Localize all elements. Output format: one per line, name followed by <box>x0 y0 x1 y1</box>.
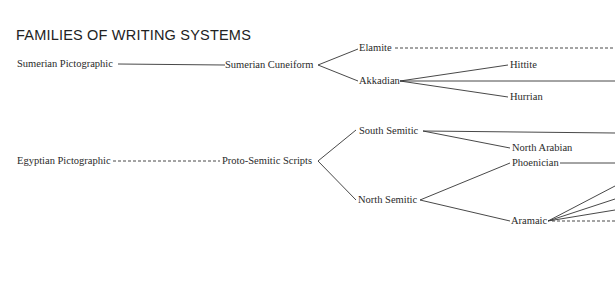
node-sumerian-cuneiform: Sumerian Cuneiform <box>225 59 313 71</box>
node-phoenician: Phoenician <box>512 157 559 169</box>
node-sumerian-pictographic: Sumerian Pictographic <box>17 58 113 70</box>
node-elamite: Elamite <box>359 42 392 54</box>
node-south-semitic: South Semitic <box>359 125 418 137</box>
node-egyptian-pictographic: Egyptian Pictographic <box>17 155 111 167</box>
node-proto-semitic: Proto-Semitic Scripts <box>222 155 312 167</box>
node-akkadian: Akkadian <box>359 75 400 87</box>
node-hittite: Hittite <box>510 59 537 71</box>
node-aramaic: Aramaic <box>511 215 547 227</box>
node-north-semitic: North Semitic <box>358 194 417 206</box>
node-north-arabian: North Arabian <box>512 142 572 154</box>
node-hurrian: Hurrian <box>510 91 543 103</box>
